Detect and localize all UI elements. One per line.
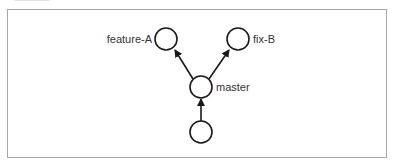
edge-master-to-feature-a (175, 50, 193, 79)
branch-diagram: feature-A fix-B master (0, 0, 396, 168)
node-master (190, 76, 212, 98)
edge-master-to-fix-b (209, 50, 229, 79)
node-fix-b (227, 28, 249, 50)
label-fix-b: fix-B (253, 33, 275, 45)
label-feature-a: feature-A (107, 33, 153, 45)
node-feature-a (155, 28, 177, 50)
label-master: master (216, 81, 250, 93)
node-base (190, 121, 212, 143)
